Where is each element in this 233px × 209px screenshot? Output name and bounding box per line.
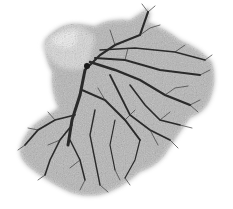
tissue-mass <box>0 0 233 209</box>
vessel-junction <box>84 63 90 69</box>
vascular-tree-illustration <box>0 0 233 209</box>
vascular-cast-image <box>0 0 233 209</box>
